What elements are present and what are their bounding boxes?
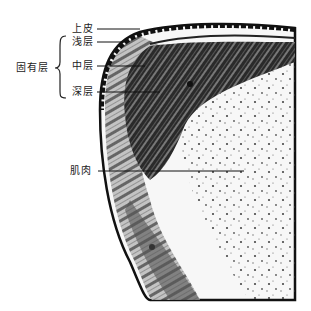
leader-lines — [0, 0, 311, 311]
label-lamina-propria: 固有层 — [16, 62, 49, 74]
label-muscle: 肌肉 — [70, 165, 92, 177]
label-superficial-layer: 浅层 — [72, 36, 94, 48]
label-middle-layer: 中层 — [72, 60, 94, 72]
label-deep-layer: 深层 — [72, 86, 94, 98]
histology-figure: 上皮 浅层 中层 深层 固有层 肌肉 — [0, 0, 311, 311]
brace-icon — [55, 36, 66, 98]
label-epithelium: 上皮 — [72, 23, 94, 35]
